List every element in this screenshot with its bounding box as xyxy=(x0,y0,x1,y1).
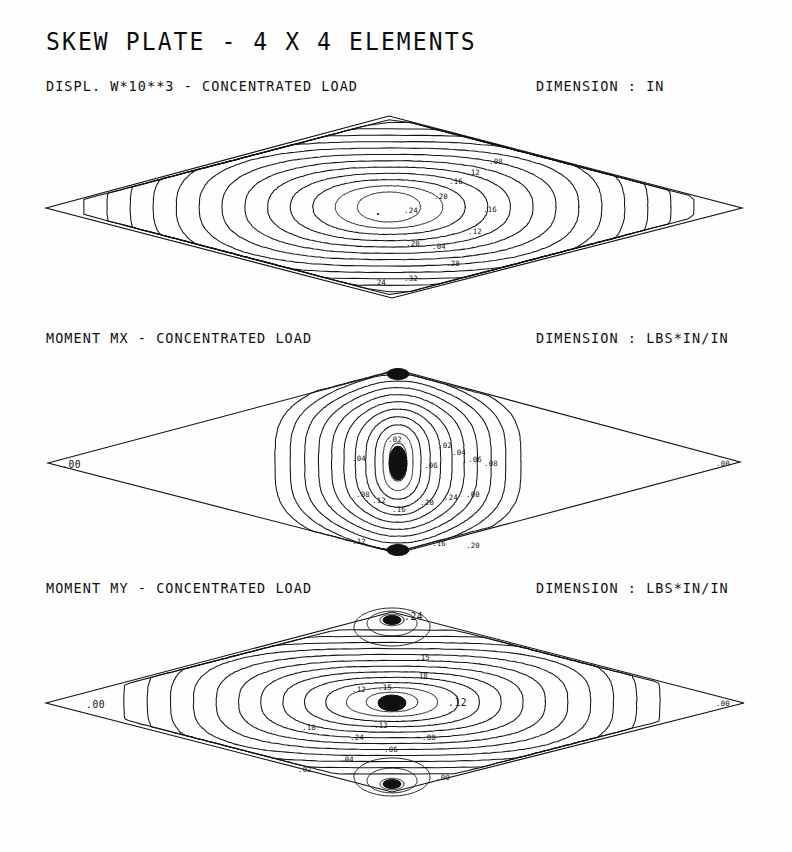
contour-line xyxy=(147,636,637,768)
contour-line xyxy=(367,611,417,636)
contour-line xyxy=(222,154,556,259)
contour-line xyxy=(344,402,452,523)
plate-outline-2 xyxy=(48,370,740,553)
contour-core-blob xyxy=(389,446,407,480)
contour-line xyxy=(238,660,545,743)
contour-set-displacement xyxy=(84,120,694,295)
plot-sheet: SKEW PLATE - 4 X 4 ELEMENTS DISPL. W*10*… xyxy=(0,0,792,852)
contour-line xyxy=(366,417,431,508)
contour-line xyxy=(332,395,465,530)
contour-label: .16 xyxy=(392,505,406,514)
contour-line xyxy=(357,192,420,222)
contour-line xyxy=(193,648,591,755)
contour-label: .04 xyxy=(432,242,446,251)
contour-label: .08 xyxy=(356,490,370,499)
contour-label: .04 xyxy=(452,448,466,457)
contour-label: .08 xyxy=(484,459,498,468)
contour-label: .12 xyxy=(466,168,480,177)
contour-label: .15 xyxy=(416,653,430,662)
contour-line xyxy=(375,425,421,499)
contour-set-moment-my xyxy=(124,608,660,796)
contour-line xyxy=(318,388,477,537)
contour-line xyxy=(354,758,430,796)
contour-line xyxy=(366,692,418,712)
contour-set-moment-mx xyxy=(275,369,521,556)
contour-labels-moment-my: .24.12.18.15.12.08.06.04.02.00.24.18.15.… xyxy=(298,611,467,782)
corner-label-right-3: .00 xyxy=(716,699,730,708)
contour-line xyxy=(313,180,466,235)
corner-label-right-2: .00 xyxy=(716,459,730,468)
contour-line xyxy=(245,161,533,254)
contour-line xyxy=(170,642,613,761)
contour-label: .04 xyxy=(352,454,366,463)
contour-label: .12 xyxy=(448,697,467,708)
contour-label: .20 xyxy=(406,239,420,248)
contour-label: .24 xyxy=(350,733,364,742)
panel-3-dimension: DIMENSION : LBS*IN/IN xyxy=(536,580,729,596)
contour-label: .12 xyxy=(352,537,366,546)
contour-label: .16 xyxy=(483,205,497,214)
contour-label: .06 xyxy=(424,461,438,470)
contour-label: .12 xyxy=(374,721,388,730)
contour-line xyxy=(216,654,568,749)
panel-2-dimension: DIMENSION : LBS*IN/IN xyxy=(536,330,729,346)
contour-line xyxy=(383,433,413,490)
plot-speck xyxy=(377,213,379,215)
contour-labels-displacement: .24.20.16.12.08.04.28.32.24.20.16.12 xyxy=(372,157,503,287)
contour-label: .20 xyxy=(420,498,434,507)
contour-line xyxy=(153,135,625,279)
contour-label: .06 xyxy=(468,455,482,464)
contour-line xyxy=(290,374,506,549)
contour-line xyxy=(283,672,501,732)
contour-label: .32 xyxy=(404,274,418,283)
contour-line xyxy=(261,666,523,738)
contour-label: .00 xyxy=(466,490,480,499)
contour-label: .16 xyxy=(449,177,463,186)
contour-label: .12 xyxy=(372,496,386,505)
contour-line xyxy=(389,443,407,481)
contour-line xyxy=(199,148,579,266)
contour-line xyxy=(275,371,521,553)
contour-core-blob xyxy=(383,616,401,625)
contour-line xyxy=(355,409,441,515)
contour-label: .00 xyxy=(436,773,450,782)
contour-line xyxy=(326,682,459,721)
contour-label: .18 xyxy=(302,723,316,732)
contour-line xyxy=(335,186,443,229)
contour-line xyxy=(354,608,430,646)
contour-labels-moment-mx: .02.04.06.08.12.16.20.24.00.02.04.06.08.… xyxy=(352,435,498,550)
contour-label: .15 xyxy=(378,683,392,692)
contour-line xyxy=(346,687,437,716)
contour-line xyxy=(305,381,492,543)
page-title: SKEW PLATE - 4 X 4 ELEMENTS xyxy=(46,28,477,56)
contour-line xyxy=(124,630,660,774)
contour-label: .24 xyxy=(404,611,423,622)
contour-line xyxy=(176,142,602,273)
contour-label: .08 xyxy=(422,733,436,742)
contour-label: .18 xyxy=(414,671,428,680)
contour-label: .28 xyxy=(446,259,460,268)
corner-label-left-2: .00 xyxy=(62,459,81,470)
contour-label: .12 xyxy=(468,227,482,236)
contour-line xyxy=(268,167,511,247)
corner-label-left-3: .00 xyxy=(86,699,105,710)
contour-line xyxy=(380,778,404,789)
panel-1-dimension: DIMENSION : IN xyxy=(536,78,665,94)
contour-label: .20 xyxy=(434,192,448,201)
contour-label: .16 xyxy=(432,539,446,548)
contour-label: .20 xyxy=(466,541,480,550)
contour-label: .02 xyxy=(438,441,452,450)
contour-label: .02 xyxy=(388,435,402,444)
contour-core-blob xyxy=(378,695,406,711)
contour-label: .08 xyxy=(489,157,503,166)
panel-1-caption: DISPL. W*10**3 - CONCENTRATED LOAD xyxy=(46,78,358,94)
panel-2-caption: MOMENT MX - CONCENTRATED LOAD xyxy=(46,330,312,346)
contour-core-blob xyxy=(387,369,409,380)
contour-core-blob xyxy=(383,780,401,789)
contour-label: .02 xyxy=(298,765,312,774)
plate-outline-1 xyxy=(46,116,742,298)
contour-label: .24 xyxy=(444,493,458,502)
contour-line xyxy=(84,120,694,295)
contour-core-blob xyxy=(387,545,409,556)
contour-label: .06 xyxy=(384,745,398,754)
